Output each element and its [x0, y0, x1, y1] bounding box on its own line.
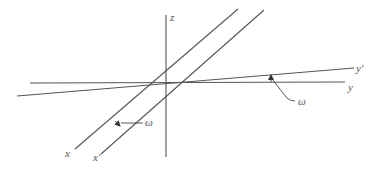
x-prime-axis-label: x′: [93, 152, 100, 163]
x-axis-label: x: [65, 148, 70, 159]
diagram-lines: [0, 0, 381, 169]
rotation-axes-diagram: z y y′ x x′ ω ω: [0, 0, 381, 169]
y-prime-axis-label: y′: [356, 63, 363, 74]
omega-x-label: ω: [145, 117, 153, 128]
omega-y-label: ω: [298, 96, 306, 107]
omega-x-arc-arrow: [115, 121, 120, 126]
y-axis-label: y: [348, 82, 353, 93]
x-axis: [75, 9, 238, 149]
omega-y-leader-line: [273, 80, 295, 101]
z-axis-label: z: [170, 12, 174, 23]
